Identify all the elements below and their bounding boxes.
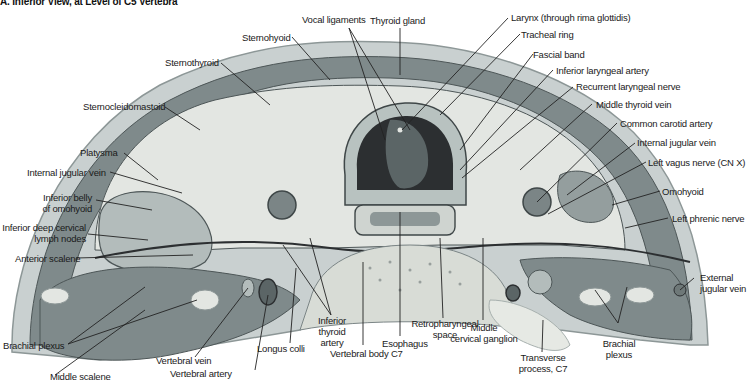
- carotid-left-shape: [268, 191, 296, 219]
- label-transverse-process-c7: Transverse process, C7: [515, 352, 571, 374]
- label-left-phrenic-nerve: Left phrenic nerve: [672, 213, 744, 224]
- label-middle-thyroid-vein: Middle thyroid vein: [596, 99, 671, 110]
- label-fascial-band: Fascial band: [533, 49, 584, 60]
- label-vertebral-artery: Vertebral artery: [170, 368, 232, 379]
- label-external-jugular-vein: External jugular vein: [700, 272, 746, 294]
- label-internal-jugular-vein-left: Internal jugular vein: [27, 167, 106, 178]
- label-middle-scalene: Middle scalene: [50, 371, 111, 382]
- label-thyroid-gland: Thyroid gland: [370, 15, 425, 26]
- label-omohyoid: Omohyoid: [662, 186, 704, 197]
- label-middle-cervical-ganglion: Middle cervical ganglion: [448, 322, 520, 344]
- label-tracheal-ring: Tracheal ring: [521, 29, 574, 40]
- label-anterior-scalene: Anterior scalene: [15, 253, 80, 264]
- label-inferior-laryngeal-artery: Inferior laryngeal artery: [556, 65, 649, 76]
- label-vertebral-body-c7: Vertebral body C7: [330, 348, 403, 359]
- label-platysma: Platysma: [80, 147, 117, 158]
- label-inferior-deep-cervical-lymph-nodes: Inferior deep cervical lymph nodes: [2, 222, 86, 244]
- label-sternohyoid: Sternohyoid: [242, 32, 291, 43]
- label-vocal-ligaments: Vocal ligaments: [302, 14, 366, 25]
- label-larynx: Larynx (through rima glottidis): [511, 12, 630, 23]
- label-longus-colli: Longus colli: [257, 343, 305, 354]
- neck-cross-section-illustration: [0, 0, 749, 382]
- label-brachial-plexus-left: Brachial plexus: [3, 340, 64, 351]
- label-vertebral-vein: Vertebral vein: [156, 355, 211, 366]
- label-inferior-thyroid-artery: Inferior thyroid artery: [312, 315, 352, 348]
- label-brachial-plexus-right: Brachial plexus: [597, 338, 641, 360]
- vertebral-artery-shape: [259, 279, 277, 305]
- label-inferior-belly-omohyoid: Inferior belly of omohyoid: [30, 192, 92, 214]
- label-sternocleidomastoid: Sternocleidomastoid: [83, 101, 165, 112]
- label-recurrent-laryngeal-nerve: Recurrent laryngeal nerve: [576, 81, 680, 92]
- label-left-vagus-nerve: Left vagus nerve (CN X): [648, 157, 745, 168]
- label-common-carotid-artery: Common carotid artery: [620, 118, 712, 129]
- label-sternothyroid: Sternothyroid: [165, 57, 219, 68]
- label-internal-jugular-vein-right: Internal jugular vein: [637, 137, 716, 148]
